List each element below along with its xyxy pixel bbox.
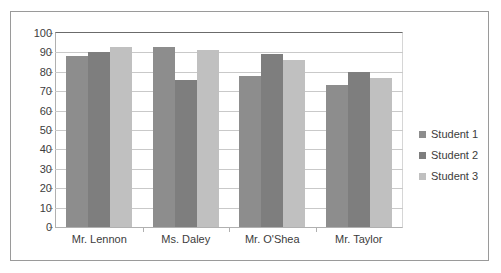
legend-swatch-icon [419, 152, 426, 159]
legend-label: Student 1 [431, 129, 478, 140]
bar-student-2-ms-daley[interactable] [175, 80, 197, 227]
x-axis-tick-label: Mr. Lennon [56, 234, 143, 245]
plot-wrapper: 0102030405060708090100 Mr. LennonMs. Dal… [11, 12, 488, 260]
x-axis-tick-label: Mr. Taylor [316, 234, 403, 245]
y-axis-tick-label: 50 [14, 125, 52, 136]
x-axis-tick-mark [143, 228, 144, 232]
legend-swatch-icon [419, 131, 426, 138]
y-axis-tick-label: 70 [14, 86, 52, 97]
y-axis: 0102030405060708090100 [11, 32, 52, 228]
y-axis-tick-label: 30 [14, 163, 52, 174]
legend-item[interactable]: Student 2 [419, 145, 485, 166]
x-axis-tick-label: Mr. O'Shea [229, 234, 316, 245]
bar-student-2-mr-taylor[interactable] [348, 72, 370, 227]
x-axis: Mr. LennonMs. DaleyMr. O'SheaMr. Taylor [56, 234, 402, 254]
bar-student-1-mr-lennon[interactable] [66, 56, 88, 227]
x-axis-tick-mark [316, 228, 317, 232]
x-axis-tick-label: Ms. Daley [143, 234, 230, 245]
y-axis-tick-label: 80 [14, 66, 52, 77]
y-axis-tick-label: 40 [14, 144, 52, 155]
bar-student-3-mr-lennon[interactable] [110, 47, 132, 227]
y-axis-tick-label: 10 [14, 202, 52, 213]
legend-label: Student 2 [431, 150, 478, 161]
chart-container: 0102030405060708090100 Mr. LennonMs. Dal… [10, 11, 489, 261]
bar-student-2-mr-lennon[interactable] [88, 52, 110, 227]
legend-item[interactable]: Student 1 [419, 124, 485, 145]
bar-student-3-ms-daley[interactable] [197, 50, 219, 227]
bar-student-2-mr-o-shea[interactable] [261, 54, 283, 227]
legend-swatch-icon [419, 173, 426, 180]
bar-student-3-mr-taylor[interactable] [370, 78, 392, 227]
bars-layer [56, 33, 402, 227]
legend: Student 1Student 2Student 3 [419, 124, 485, 187]
bar-student-1-mr-o-shea[interactable] [239, 76, 261, 227]
x-axis-tick-mark [229, 228, 230, 232]
y-axis-tick-label: 100 [14, 28, 52, 39]
y-axis-tick-label: 0 [14, 222, 52, 233]
y-axis-tick-label: 60 [14, 105, 52, 116]
y-axis-tick-label: 20 [14, 183, 52, 194]
legend-item[interactable]: Student 3 [419, 166, 485, 187]
bar-student-1-ms-daley[interactable] [153, 47, 175, 227]
y-axis-tick-label: 90 [14, 47, 52, 58]
legend-label: Student 3 [431, 171, 478, 182]
bar-student-3-mr-o-shea[interactable] [283, 60, 305, 227]
bar-student-1-mr-taylor[interactable] [326, 85, 348, 227]
